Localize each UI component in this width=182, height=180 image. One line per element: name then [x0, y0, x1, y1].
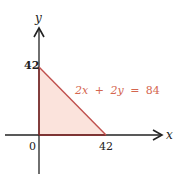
x-intercept-label: 42 — [99, 140, 113, 153]
x-axis-label: x — [166, 128, 173, 142]
equation-rhs: 84 — [146, 84, 160, 97]
equation-term-2y: 2y — [109, 84, 124, 97]
feasible-region-diagram: y x 42 42 0 2x + 2y = 84 — [0, 0, 182, 180]
y-intercept-label: 42 — [24, 59, 39, 72]
constraint-equation: 2x + 2y = 84 — [74, 84, 160, 97]
equation-equals: = — [130, 84, 139, 97]
origin-label: 0 — [29, 140, 36, 153]
equation-term-2x: 2x — [74, 84, 89, 97]
y-axis-label: y — [34, 11, 42, 25]
equation-plus: + — [95, 84, 104, 97]
